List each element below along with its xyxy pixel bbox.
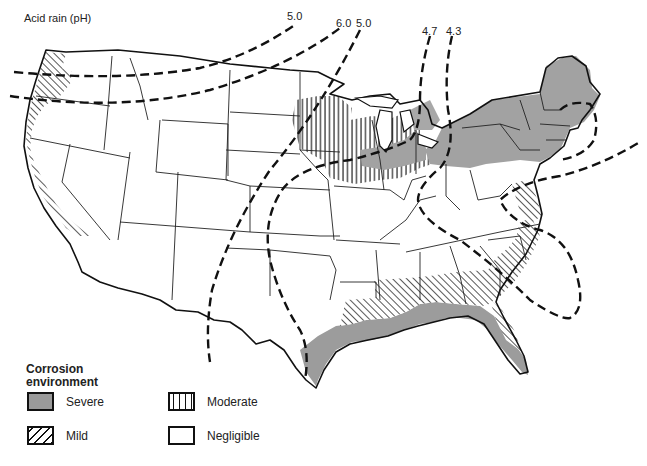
- legend-item-moderate: Moderate: [168, 392, 258, 411]
- mild-swatch-icon: [27, 426, 54, 445]
- severe-swatch-icon: [27, 392, 54, 411]
- isopleth-label-5-0-b: 5.0: [356, 17, 371, 29]
- legend-title: Corrosion environment: [26, 363, 98, 389]
- moderate-swatch-icon: [168, 392, 195, 411]
- legend-item-mild: Mild: [27, 426, 88, 445]
- isopleth-label-6-0: 6.0: [336, 17, 351, 29]
- isopleth-label-4-3: 4.3: [446, 25, 461, 37]
- isopleth-5-0-central: [208, 30, 360, 362]
- isopleth-label-4-7: 4.7: [422, 25, 437, 37]
- map-title: Acid rain (pH): [24, 12, 91, 24]
- severe-region-northeast: [360, 56, 600, 170]
- legend-item-negligible: Negligible: [168, 426, 260, 445]
- legend-item-severe: Severe: [27, 392, 104, 411]
- severe-region-gulf-coast: [300, 302, 528, 386]
- isopleth-label-5-0-a: 5.0: [287, 10, 302, 22]
- state-boundaries: [30, 56, 570, 304]
- negligible-swatch-icon: [168, 426, 195, 445]
